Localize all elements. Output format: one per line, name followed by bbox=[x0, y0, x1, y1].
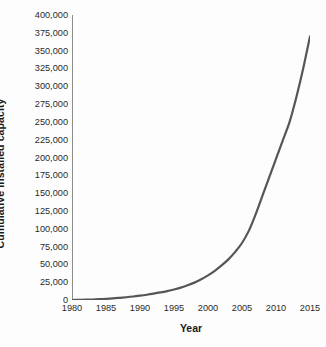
y-axis-tick-labels: 025,00050,00075,000100,000125,000150,000… bbox=[0, 0, 68, 347]
x-tick-label: 2005 bbox=[232, 303, 252, 313]
y-tick-label: 125,000 bbox=[0, 206, 68, 216]
x-axis-title: Year bbox=[72, 322, 310, 334]
x-axis-tick-labels: 19801985199019952000200520102015 bbox=[0, 303, 326, 319]
x-tick-label: 2010 bbox=[266, 303, 286, 313]
y-tick-label: 250,000 bbox=[0, 117, 68, 127]
tick-marks bbox=[72, 16, 310, 301]
x-tick-label: 1980 bbox=[62, 303, 82, 313]
y-tick-label: 350,000 bbox=[0, 46, 68, 56]
y-tick-label: 150,000 bbox=[0, 188, 68, 198]
axis-lines bbox=[73, 15, 311, 300]
y-tick-label: 175,000 bbox=[0, 170, 68, 180]
axes-and-series bbox=[72, 15, 310, 300]
y-tick-label: 325,000 bbox=[0, 63, 68, 73]
y-tick-label: 300,000 bbox=[0, 81, 68, 91]
y-tick-label: 25,000 bbox=[0, 277, 68, 287]
x-tick-label: 1985 bbox=[96, 303, 116, 313]
y-tick-label: 75,000 bbox=[0, 242, 68, 252]
x-tick-label: 2000 bbox=[198, 303, 218, 313]
y-tick-label: 400,000 bbox=[0, 10, 68, 20]
y-tick-label: 225,000 bbox=[0, 135, 68, 145]
data-series-line bbox=[72, 36, 310, 300]
x-tick-label: 2015 bbox=[300, 303, 320, 313]
x-tick-label: 1990 bbox=[130, 303, 150, 313]
y-tick-label: 375,000 bbox=[0, 28, 68, 38]
x-tick-label: 1995 bbox=[164, 303, 184, 313]
y-tick-label: 100,000 bbox=[0, 224, 68, 234]
y-tick-label: 50,000 bbox=[0, 259, 68, 269]
y-tick-label: 275,000 bbox=[0, 99, 68, 109]
plot-area bbox=[72, 15, 310, 300]
chart-container: Cumulative installed capacity 025,00050,… bbox=[0, 0, 326, 347]
y-tick-label: 200,000 bbox=[0, 153, 68, 163]
